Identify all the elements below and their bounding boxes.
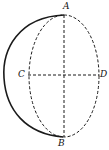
label-B: B xyxy=(58,139,65,148)
hemisphere-diagram xyxy=(0,0,109,150)
label-D: D xyxy=(100,70,107,79)
label-A: A xyxy=(63,2,70,11)
solid-arc xyxy=(4,15,64,137)
label-C: C xyxy=(18,70,25,79)
